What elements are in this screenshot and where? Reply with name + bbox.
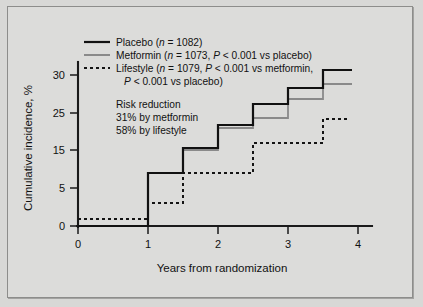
y-tick-label-0: 0 [59,220,65,232]
legend-label-lifestyle-continued: P < 0.001 vs placebo) [124,76,223,87]
figure-container: 0 5 15 25 30 Cumulative incidence, % 0 1… [0,0,423,307]
y-tick-label-25: 25 [53,107,65,119]
x-tick-label-4: 4 [355,238,361,250]
x-tick-label-0: 0 [75,238,81,250]
y-tick-label-5: 5 [59,182,65,194]
legend-label-metformin: Metformin (n = 1073, P < 0.001 vs placeb… [116,50,312,61]
legend-label-lifestyle: Lifestyle (n = 1079, P < 0.001 vs metfor… [116,63,313,74]
legend: Placebo (n = 1082) Metformin (n = 1073, … [84,37,313,87]
risk-reduction-annotation: Risk reduction 31% by metformin 58% by l… [116,99,198,136]
annotation-line-2: 31% by metformin [116,112,198,123]
annotation-line-3: 58% by lifestyle [116,125,187,136]
legend-label-placebo: Placebo (n = 1082) [116,37,202,48]
annotation-line-1: Risk reduction [116,99,181,110]
cumulative-incidence-chart: 0 5 15 25 30 Cumulative incidence, % 0 1… [0,0,423,307]
x-tick-label-1: 1 [145,238,151,250]
x-tick-label-2: 2 [215,238,221,250]
series-group [78,70,352,226]
x-tick-label-3: 3 [285,238,291,250]
x-axis-title: Years from randomization [157,262,288,274]
y-axis: 0 5 15 25 30 Cumulative incidence, % [22,62,78,232]
y-tick-label-15: 15 [53,144,65,156]
y-tick-label-30: 30 [53,69,65,81]
x-axis: 0 1 2 3 4 Years from randomization [75,226,372,274]
series-placebo-line [78,70,352,226]
y-axis-title: Cumulative incidence, % [22,85,34,211]
